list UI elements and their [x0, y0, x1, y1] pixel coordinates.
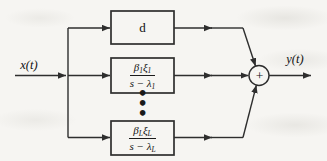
fraction-denominator: s − λL	[129, 139, 155, 153]
output-label: y(t)	[277, 52, 313, 66]
top-diagonal-arrow	[243, 28, 256, 66]
input-label: x(t)	[12, 58, 46, 72]
block-diagram: x(t) y(t) d β1ξ1 s − λ1 • • • βLξL s − λ…	[0, 0, 327, 161]
block-modeL-fraction: βLξL s − λL	[111, 121, 174, 155]
bottom-diagonal-arrow	[243, 85, 256, 137]
transfer-function-L: βLξL s − λL	[129, 124, 155, 152]
fraction-numerator: β1ξ1	[130, 61, 156, 76]
block-d-label: d	[111, 11, 174, 44]
vertical-ellipsis-icon: • • •	[133, 89, 152, 119]
fraction-numerator: βLξL	[129, 124, 155, 139]
sum-plus-sign: +	[249, 65, 270, 86]
